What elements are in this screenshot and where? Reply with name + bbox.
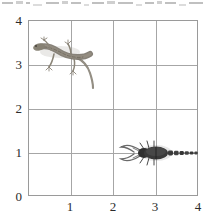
y-tick-label-3: 3: [6, 58, 22, 71]
y-tick-label-4: 4: [6, 14, 22, 27]
x-tick-label-3: 3: [147, 200, 163, 213]
y-tick-label-0: 0: [6, 190, 22, 203]
gridline-vertical-2: [113, 21, 114, 195]
earwig-icon: [121, 141, 198, 165]
specimen-lizard: [30, 36, 108, 88]
x-tick-label-2: 2: [105, 200, 121, 213]
x-tick-label-4: 4: [190, 200, 206, 213]
lizard-icon: [32, 37, 93, 88]
y-tick-label-2: 2: [6, 102, 22, 115]
x-tick-label-1: 1: [62, 200, 78, 213]
gridline-horizontal-2: [29, 109, 197, 110]
specimen-earwig: [118, 135, 200, 171]
y-tick-label-1: 1: [6, 146, 22, 159]
coordinate-grid-figure: 4 3 2 1 0 1 2 3 4: [0, 0, 210, 223]
